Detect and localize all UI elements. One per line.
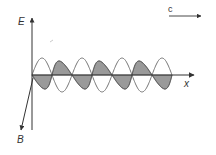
b-axis-label: B (17, 134, 24, 145)
x-axis-label: x (183, 78, 190, 89)
b-field-lobe (112, 75, 132, 89)
stray-mark (50, 40, 53, 42)
e-axis-label: E (18, 16, 25, 27)
b-field-lobe (152, 75, 172, 89)
b-axis (21, 78, 33, 130)
b-field-lobe (52, 61, 72, 75)
em-wave-diagram: E B x c (0, 0, 216, 155)
b-field-lobe (72, 75, 92, 89)
velocity-label: c (168, 4, 173, 14)
b-field-lobe (32, 75, 52, 89)
b-field-lobe (132, 61, 152, 75)
b-field-lobe (92, 61, 112, 75)
